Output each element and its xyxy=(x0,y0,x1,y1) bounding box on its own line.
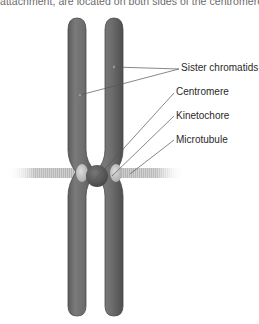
label-centromere: Centromere xyxy=(176,86,229,97)
microtubule-right xyxy=(116,168,184,178)
label-kinetochore: Kinetochore xyxy=(176,110,229,121)
label-microtubule: Microtubule xyxy=(176,134,228,145)
leader-lines xyxy=(80,67,179,180)
label-sister-chromatids: Sister chromatids xyxy=(181,62,258,73)
kinetochore-right xyxy=(110,164,122,182)
centromere xyxy=(86,165,108,187)
chromosome-diagram xyxy=(0,0,259,324)
microtubule-left xyxy=(8,168,84,178)
kinetochore-left xyxy=(76,164,88,182)
